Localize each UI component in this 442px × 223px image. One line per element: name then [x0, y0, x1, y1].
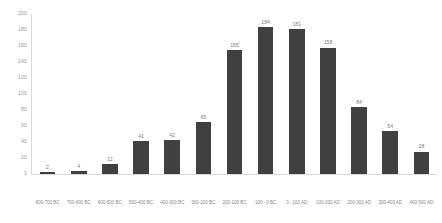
x-axis-tick-label: 400-500 AD [406, 201, 437, 206]
bar[interactable]: 28 [414, 14, 430, 174]
bar-rect [289, 29, 305, 174]
bar-rect [227, 50, 243, 174]
bar-value-label: 42 [164, 133, 180, 138]
x-axis-tick-label: 500-400 BC [125, 201, 156, 206]
y-axis-tick-label: 60 [21, 123, 27, 128]
bar[interactable]: 42 [164, 14, 180, 174]
bar-rect [133, 141, 149, 174]
bar-value-label: 54 [382, 124, 398, 129]
bar-value-label: 2 [40, 165, 56, 170]
x-axis-line [31, 174, 437, 175]
x-axis: 800-700 BC700-600 BC600-500 BC500-400 BC… [32, 201, 437, 213]
y-axis-tick-label: 40 [21, 139, 27, 144]
x-axis-tick-label: 200-300 AD [344, 201, 375, 206]
bar-rect [414, 152, 430, 174]
y-axis: 200180160140120100806040200 [0, 14, 32, 174]
bar-value-label: 184 [258, 20, 274, 25]
bar-value-label: 41 [133, 134, 149, 139]
x-axis-tick-label: 700-600 BC [63, 201, 94, 206]
bar[interactable]: 4 [71, 14, 87, 174]
y-axis-tick-label: 120 [18, 75, 27, 80]
y-axis-tick-label: 100 [18, 91, 27, 96]
x-axis-tick-label: 300-200 BC [188, 201, 219, 206]
bar-rect [164, 140, 180, 174]
bar-value-label: 181 [289, 22, 305, 27]
bar-chart: 200180160140120100806040200 241241426515… [0, 0, 442, 223]
bar-value-label: 12 [102, 157, 118, 162]
bar[interactable]: 41 [133, 14, 149, 174]
bar-rect [258, 27, 274, 174]
bar[interactable]: 155 [227, 14, 243, 174]
y-axis-tick-label: 160 [18, 43, 27, 48]
bar[interactable]: 2 [40, 14, 56, 174]
bar-rect [71, 171, 87, 174]
bar-value-label: 158 [320, 40, 336, 45]
bar[interactable]: 181 [289, 14, 305, 174]
y-axis-tick-label: 140 [18, 59, 27, 64]
y-axis-tick-label: 200 [18, 11, 27, 16]
x-axis-tick-label: 100-200 AD [312, 201, 343, 206]
y-axis-tick-label: 0 [24, 171, 27, 176]
bar-rect [102, 164, 118, 174]
x-axis-tick-label: 400-300 BC [157, 201, 188, 206]
bar[interactable]: 184 [258, 14, 274, 174]
bar-rect [382, 131, 398, 174]
x-axis-tick-label: 800-700 BC [32, 201, 63, 206]
y-axis-tick-label: 80 [21, 107, 27, 112]
bar-rect [196, 122, 212, 174]
bar[interactable]: 158 [320, 14, 336, 174]
bar[interactable]: 65 [196, 14, 212, 174]
bar[interactable]: 54 [382, 14, 398, 174]
x-axis-tick-label: 200-100 BC [219, 201, 250, 206]
plot-area: 2412414265155184181158845428 [32, 14, 437, 174]
bar-rect [320, 48, 336, 174]
bar-value-label: 84 [351, 100, 367, 105]
x-axis-tick-label: 0 - 100 AD [281, 201, 312, 206]
bar-value-label: 155 [227, 43, 243, 48]
bar-value-label: 28 [414, 144, 430, 149]
x-axis-tick-label: 300-400 AD [375, 201, 406, 206]
x-axis-tick-label: 600-500 BC [94, 201, 125, 206]
bar-rect [351, 107, 367, 174]
y-axis-tick-label: 180 [18, 27, 27, 32]
bar-rect [40, 172, 56, 174]
bar[interactable]: 12 [102, 14, 118, 174]
bar-value-label: 4 [71, 164, 87, 169]
bar[interactable]: 84 [351, 14, 367, 174]
x-axis-tick-label: 100 - 0 BC [250, 201, 281, 206]
y-axis-tick-label: 20 [21, 155, 27, 160]
bar-value-label: 65 [196, 115, 212, 120]
